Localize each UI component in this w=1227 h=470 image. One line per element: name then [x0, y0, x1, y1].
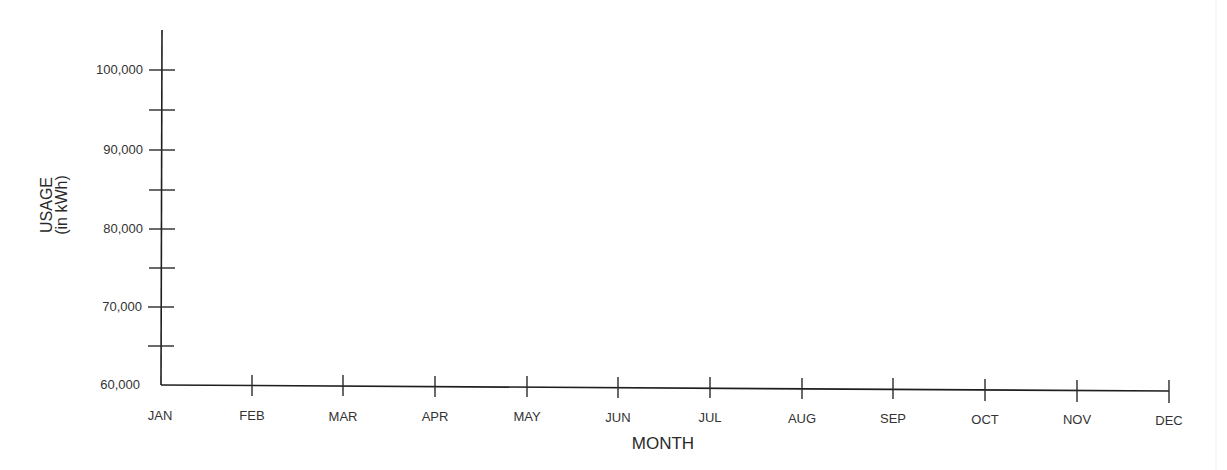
- x-tick-label-jun: JUN: [605, 410, 630, 425]
- y-axis-line: [161, 30, 162, 385]
- y-axis-title-line2: (in kWh): [53, 175, 70, 235]
- x-tick-label-dec: DEC: [1155, 413, 1182, 428]
- x-tick-label-may: MAY: [513, 409, 541, 424]
- x-tick-label-jul: JUL: [698, 410, 721, 425]
- y-tick-label-70000: 70,000: [102, 299, 142, 314]
- y-tick-label-90000: 90,000: [103, 142, 143, 157]
- x-tick-label-mar: MAR: [329, 409, 358, 424]
- x-axis: JAN FEB MAR APR MAY JUN JUL AUG SEP OCT …: [148, 375, 1183, 428]
- x-tick-label-nov: NOV: [1063, 412, 1092, 427]
- x-tick-label-oct: OCT: [971, 412, 999, 427]
- x-axis-line: [161, 385, 1169, 391]
- y-tick-label-60000: 60,000: [100, 377, 140, 392]
- x-tick-label-feb: FEB: [239, 408, 264, 423]
- x-axis-title: MONTH: [632, 434, 694, 453]
- x-tick-label-sep: SEP: [880, 411, 906, 426]
- y-tick-label-100000: 100,000: [96, 62, 143, 77]
- x-tick-label-apr: APR: [422, 409, 449, 424]
- y-axis-title: USAGE (in kWh): [38, 175, 70, 235]
- y-axis: 100,000 90,000 80,000 70,000 60,000: [96, 30, 175, 392]
- y-tick-label-80000: 80,000: [103, 221, 143, 236]
- usage-chart: 100,000 90,000 80,000 70,000 60,000 USAG…: [0, 0, 1227, 470]
- x-tick-label-jan: JAN: [148, 408, 173, 423]
- x-tick-label-aug: AUG: [788, 411, 816, 426]
